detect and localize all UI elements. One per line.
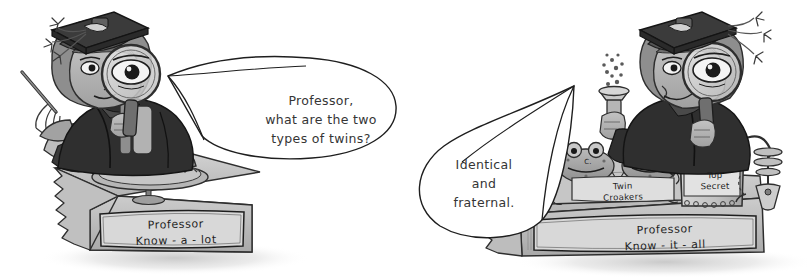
left-speech-bubble-text: Professor, what are the two types of twi… (248, 92, 394, 148)
twin-croakers-label: Twin Croakers (577, 179, 670, 205)
cartoon-scene: Professor, what are the two types of twi… (0, 0, 808, 278)
top-secret-label: Top Secret (680, 169, 750, 193)
frog-marking-label: C. (578, 158, 598, 167)
left-plinth-label: Professor Know - a - lot (96, 215, 257, 251)
right-plinth-label: Professor Know - it - all (570, 219, 761, 257)
right-speech-bubble-text: Identical and fraternal. (424, 156, 544, 212)
